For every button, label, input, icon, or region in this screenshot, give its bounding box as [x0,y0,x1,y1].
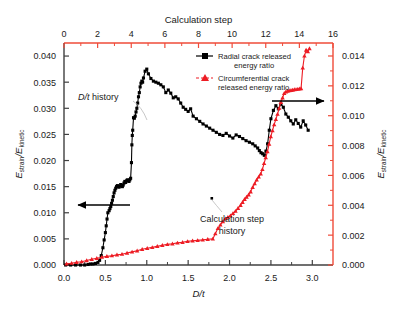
top-tick-label: 12 [261,29,271,39]
top-tick-label: 6 [162,29,167,39]
data-point [289,119,292,122]
data-point [238,135,241,138]
data-point [179,102,182,105]
data-point [131,134,134,137]
right-tick-label: 0.010 [342,111,365,121]
figure-root: 0.00.51.01.52.02.53.0D/t0246810121416Cal… [0,0,400,312]
bottom-tick-label: 2.5 [265,273,278,283]
data-point [141,81,144,84]
data-point [134,115,137,118]
data-point [274,104,277,107]
top-tick-label: 10 [227,29,237,39]
data-point [198,120,201,123]
bottom-tick-label: 2.0 [223,273,236,283]
legend-marker-square [202,53,208,59]
data-point [221,134,224,137]
left-tick-label: 0.030 [33,104,56,114]
data-point [101,246,104,249]
data-point [202,122,205,125]
data-point [302,119,305,122]
left-tick-label: 0.015 [33,182,56,192]
data-point [111,199,114,202]
left-tick-label: 0.035 [33,78,56,88]
data-point [228,134,231,137]
data-point [195,117,198,120]
data-point [112,195,115,198]
data-point [162,85,165,88]
top-axis-title: Calculation step [165,14,233,25]
bottom-tick-label: 1.5 [182,273,195,283]
data-point [248,141,251,144]
left-tick-label: 0.010 [33,208,56,218]
data-point [241,137,244,140]
left-tick-label: 0.020 [33,156,56,166]
left-tick-label: 0.005 [33,234,56,244]
top-tick-label: 16 [328,29,338,39]
data-point [105,224,108,227]
data-point [235,133,238,136]
data-point [130,143,133,146]
data-point [287,116,290,119]
data-point [169,92,172,95]
left-tick-label: 0.040 [33,51,56,61]
bottom-tick-label: 1.0 [141,273,154,283]
bottom-tick-label: 3.0 [306,273,319,283]
data-point [145,68,148,71]
legend-label-line2: energy ratio [234,61,274,70]
calc-step-history-anchor-dot [211,197,214,200]
right-tick-label: 0.014 [342,51,365,61]
top-tick-label: 0 [61,29,66,39]
data-point [138,91,141,94]
right-tick-label: 0.000 [342,260,365,270]
data-point [105,217,108,220]
right-tick-label: 0.008 [342,141,365,151]
top-tick-label: 8 [196,29,201,39]
bottom-axis-title: D/t [192,288,205,299]
data-point [104,231,107,234]
data-point [231,137,234,140]
calc-step-history-label: Calculation step [200,214,264,224]
top-tick-label: 4 [129,29,134,39]
data-point [292,122,295,125]
top-tick-label: 14 [294,29,304,39]
data-point [269,117,272,120]
bottom-tick-label: 0.5 [99,273,112,283]
data-point [272,109,275,112]
data-point [304,123,307,126]
data-point [284,112,287,115]
data-point [135,107,138,110]
energy-ratio-chart: 0.00.51.01.52.02.53.0D/t0246810121416Cal… [0,0,400,312]
data-point [147,72,150,75]
data-point [208,127,211,130]
data-point [307,129,310,132]
data-point [139,85,142,88]
legend-label-line1: Radial crack released [218,52,291,61]
data-point [177,97,180,100]
data-point [83,263,86,266]
data-point [299,126,302,129]
data-point [103,238,106,241]
data-point [131,129,134,132]
data-point [225,132,228,135]
data-point [134,110,137,113]
data-point [167,88,170,91]
data-point [211,129,214,132]
data-point [192,115,195,118]
data-point [218,133,221,136]
right-tick-label: 0.012 [342,81,365,91]
right-tick-label: 0.002 [342,231,365,241]
data-point [294,118,297,121]
data-point [297,122,300,125]
legend-label-line1: Circumferential crack [218,74,290,83]
data-point [79,263,82,266]
top-tick-label: 2 [95,29,100,39]
left-tick-label: 0.025 [33,130,56,140]
data-point [130,161,133,164]
data-point [205,125,208,128]
legend-label-line2: released energy ratio [218,83,289,92]
calc-step-history-label-line2: history [219,226,246,236]
data-point [268,129,271,132]
bottom-tick-label: 0.0 [58,273,71,283]
data-point [137,95,140,98]
data-point [245,139,248,142]
